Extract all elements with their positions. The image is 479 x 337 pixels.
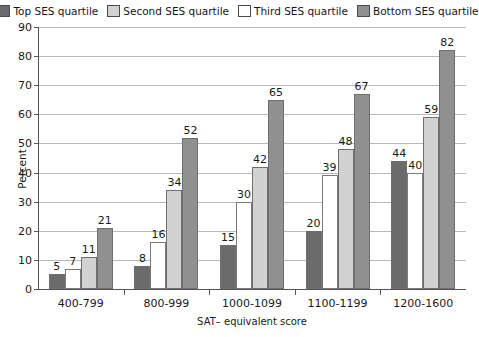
bar-slot: 34 [166,27,182,289]
x-axis-category-label: 400-799 [58,297,104,310]
bar-slot: 8 [134,27,150,289]
bar-group: 20394867 [306,27,370,289]
legend-entry: Top SES quartile [0,5,98,17]
bar-value-label: 11 [82,244,96,256]
bar-value-label: 48 [339,136,353,148]
y-axis-tick-label: 30 [18,195,32,208]
bar-value-label: 39 [323,162,337,174]
bar-value-label: 7 [69,256,76,268]
bar-value-label: 52 [183,125,197,137]
y-axis-tick-label: 0 [25,283,32,296]
bar-slot: 30 [236,27,252,289]
y-axis-tick-label: 90 [18,21,32,34]
y-axis-tick-label: 40 [18,166,32,179]
bar-value-label: 65 [269,87,283,99]
bar-value-label: 40 [408,160,422,172]
bar-value-label: 82 [440,37,454,49]
bar-value-label: 34 [167,177,181,189]
bar[interactable] [166,190,182,289]
bar[interactable] [65,269,81,289]
x-axis-tick [124,290,125,295]
bar-slot: 52 [182,27,198,289]
y-axis-tick-label: 50 [18,137,32,150]
bar-slot: 48 [338,27,354,289]
bar[interactable] [306,231,322,289]
bar-slot: 40 [407,27,423,289]
legend-label: Top SES quartile [13,5,98,17]
bar-value-label: 30 [237,189,251,201]
bar-slot: 16 [150,27,166,289]
bar[interactable] [391,161,407,289]
bar[interactable] [439,50,455,289]
x-axis-tick [209,290,210,295]
legend-label: Third SES quartile [254,5,348,17]
legend-entry: Second SES quartile [107,5,229,17]
bar-value-label: 16 [151,229,165,241]
bar[interactable] [134,266,150,289]
x-axis-tick [380,290,381,295]
bar-slot: 59 [423,27,439,289]
x-axis-category-label: 1000-1099 [222,297,282,310]
bar-slot: 5 [49,27,65,289]
bar-value-label: 42 [253,154,267,166]
bar[interactable] [268,100,284,289]
bar-slot: 67 [354,27,370,289]
x-axis-line [38,289,466,290]
legend-label: Second SES quartile [123,5,229,17]
bar-slot: 21 [97,27,113,289]
bar-value-label: 67 [355,81,369,93]
legend-entry: Bottom SES quartile [357,5,479,17]
legend-swatch-icon [238,5,251,17]
x-axis-category-label: 800-999 [143,297,189,310]
bar-value-label: 15 [221,232,235,244]
legend-entry: Third SES quartile [238,5,348,17]
bar-slot: 44 [391,27,407,289]
bar-slot: 39 [322,27,338,289]
bar[interactable] [423,117,439,289]
bar[interactable] [236,202,252,289]
bar[interactable] [182,138,198,289]
bar[interactable] [97,228,113,289]
legend-swatch-icon [357,5,370,17]
y-axis-tick-label: 20 [18,224,32,237]
bar-slot: 65 [268,27,284,289]
bar-slot: 42 [252,27,268,289]
bar-slot: 82 [439,27,455,289]
bar[interactable] [252,167,268,289]
chart-legend: Top SES quartileSecond SES quartileThird… [0,3,476,19]
bar-group: 571121 [49,27,113,289]
bar[interactable] [338,149,354,289]
y-axis-line [38,27,39,290]
bar-value-label: 21 [98,215,112,227]
x-axis-title: SAT– equivalent score [38,316,466,327]
legend-swatch-icon [107,5,120,17]
bar-value-label: 20 [307,218,321,230]
y-axis-tick-label: 10 [18,253,32,266]
bar-slot: 15 [220,27,236,289]
x-axis-tick [295,290,296,295]
bar-group: 44405982 [391,27,455,289]
bar[interactable] [49,274,65,289]
x-axis-category-label: 1100-1199 [308,297,368,310]
bar-value-label: 5 [53,261,60,273]
y-axis-tick-label: 60 [18,108,32,121]
bar[interactable] [322,175,338,289]
bar-slot: 20 [306,27,322,289]
bar-group: 8163452 [134,27,198,289]
y-axis-tick-label: 70 [18,79,32,92]
bar[interactable] [81,257,97,289]
bar[interactable] [354,94,370,289]
bar-value-label: 44 [392,148,406,160]
bar-value-label: 8 [139,253,146,265]
bar[interactable] [220,245,236,289]
bar-group: 15304265 [220,27,284,289]
legend-label: Bottom SES quartile [373,5,479,17]
bar-slot: 7 [65,27,81,289]
plot-area: 0102030405060708090 57112181634521530426… [38,27,466,290]
bar-value-label: 59 [424,104,438,116]
legend-swatch-icon [0,5,10,17]
y-axis-tick-label: 80 [18,50,32,63]
bar-slot: 11 [81,27,97,289]
bar[interactable] [407,173,423,289]
bar[interactable] [150,242,166,289]
